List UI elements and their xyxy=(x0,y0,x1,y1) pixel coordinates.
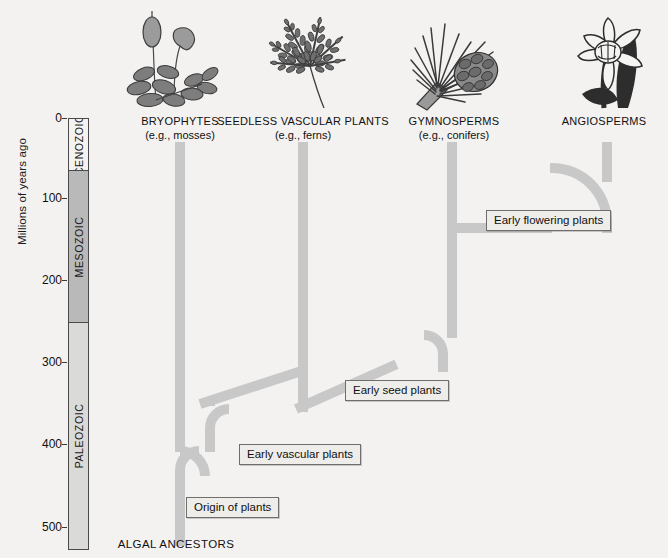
y-tick-label-0: 0 xyxy=(26,111,62,125)
root-label-algal-ancestors: ALGAL ANCESTORS xyxy=(118,538,235,550)
era-paleozoic: PALEOZOIC xyxy=(69,323,88,549)
conifer-illustration xyxy=(407,8,517,112)
y-tick-label-300: 300 xyxy=(26,355,62,369)
moss-illustration xyxy=(122,8,232,112)
era-mesozoic: MESOZOIC xyxy=(69,171,88,322)
era-cenozoic: CENOZOIC xyxy=(69,119,88,170)
branch-bryophytes xyxy=(175,142,185,452)
era-mesozoic-label: MESOZOIC xyxy=(73,216,85,277)
y-tick-label-100: 100 xyxy=(26,191,62,205)
callout-early-flowering[interactable]: Early flowering plants xyxy=(486,210,611,231)
y-tick-label-400: 400 xyxy=(26,437,62,451)
callout-origin-of-plants[interactable]: Origin of plants xyxy=(186,497,279,518)
branch-gymnosperms xyxy=(447,142,457,338)
y-tick-dash-400 xyxy=(62,444,67,445)
taxon-label-seedless-vascular: SEEDLESS VASCULAR PLANTS (e.g., ferns) xyxy=(213,114,393,142)
y-tick-label-500: 500 xyxy=(26,520,62,534)
taxon-example-seedless-vascular: (e.g., ferns) xyxy=(213,128,393,142)
callout-early-vascular[interactable]: Early vascular plants xyxy=(239,444,361,465)
y-tick-dash-200 xyxy=(62,280,67,281)
branch-gymnosperm-curve xyxy=(424,330,448,372)
taxon-name-seedless-vascular: SEEDLESS VASCULAR PLANTS xyxy=(213,114,393,128)
callout-early-seed[interactable]: Early seed plants xyxy=(345,380,449,401)
y-axis-title: Millions of years ago xyxy=(16,65,28,245)
flower-illustration xyxy=(556,8,666,112)
branch-angiosperms xyxy=(602,142,612,182)
branch-vascular-left-curve xyxy=(205,404,229,434)
taxon-name-gymnosperms: GYMNOSPERMS xyxy=(381,114,527,128)
y-tick-dash-500 xyxy=(62,527,67,528)
era-cenozoic-label: CENOZOIC xyxy=(73,119,85,170)
y-tick-dash-100 xyxy=(62,198,67,199)
figure-canvas: Millions of years ago 0 100 200 300 400 … xyxy=(0,0,668,558)
fern-illustration xyxy=(252,8,362,112)
branch-root-trunk xyxy=(175,476,185,546)
taxon-name-angiosperms: ANGIOSPERMS xyxy=(540,114,668,128)
taxon-example-gymnosperms: (e.g., conifers) xyxy=(381,128,527,142)
y-tick-dash-0 xyxy=(62,118,67,119)
y-tick-dash-300 xyxy=(62,362,67,363)
taxon-label-angiosperms: ANGIOSPERMS xyxy=(540,114,668,128)
geologic-time-scale: CENOZOIC MESOZOIC PALEOZOIC xyxy=(68,118,89,550)
era-paleozoic-label: PALEOZOIC xyxy=(73,404,85,469)
y-tick-label-200: 200 xyxy=(26,273,62,287)
taxon-label-gymnosperms: GYMNOSPERMS (e.g., conifers) xyxy=(381,114,527,142)
branch-vascular-trunk xyxy=(205,432,215,452)
branch-vascular-to-seedless xyxy=(198,365,306,409)
